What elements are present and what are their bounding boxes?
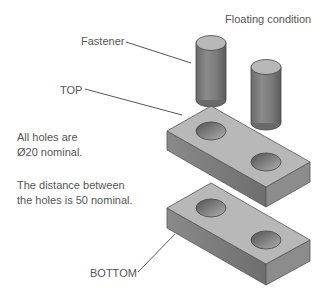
bottom-label: BOTTOM <box>90 266 137 281</box>
fastener-label: Fastener <box>81 34 124 49</box>
hole-diameter-note-line1: All holes are <box>17 130 82 145</box>
top-plate-hole-1 <box>196 122 226 140</box>
top-plate <box>167 106 310 207</box>
bottom-plate-hole-2 <box>251 231 281 249</box>
hole-diameter-note-line2: Ø20 nominal. <box>17 145 82 160</box>
top-plate-hole-2 <box>251 153 281 171</box>
hole-spacing-note-line1: The distance between <box>17 178 133 193</box>
bottom-plate-hole-1 <box>196 199 226 217</box>
fastener-leader-line <box>126 42 191 63</box>
diagram-title: Floating condition <box>225 12 311 27</box>
bottom-plate <box>167 183 310 285</box>
bottom-leader-line <box>138 234 175 272</box>
hole-spacing-note-line2: the holes is 50 nominal. <box>17 193 133 208</box>
hole-diameter-note: All holes are Ø20 nominal. <box>17 130 82 160</box>
fastener-left <box>196 36 226 108</box>
top-leader-line <box>85 89 182 115</box>
top-label: TOP <box>60 83 82 98</box>
hole-spacing-note: The distance between the holes is 50 nom… <box>17 178 133 208</box>
fastener-right <box>251 60 281 131</box>
